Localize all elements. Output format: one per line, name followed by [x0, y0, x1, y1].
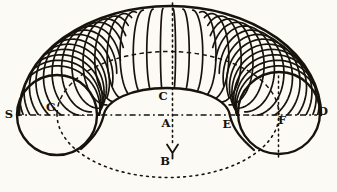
anchor-ring-figure: SGCAEFDB — [0, 0, 337, 192]
label-G: G — [46, 100, 56, 114]
meridian-line — [24, 49, 104, 135]
label-B: B — [160, 154, 170, 168]
label-C: C — [158, 89, 167, 103]
label-E: E — [223, 117, 232, 131]
anchor-ring-diagram: SGCAEFDB — [0, 0, 337, 192]
label-A: A — [161, 116, 172, 130]
label-F: F — [278, 113, 287, 127]
label-S: S — [5, 107, 13, 121]
meridian-line — [160, 9, 163, 95]
label-D: D — [318, 104, 328, 118]
